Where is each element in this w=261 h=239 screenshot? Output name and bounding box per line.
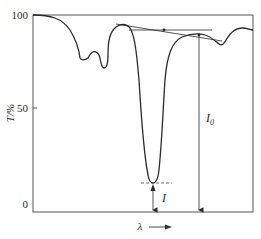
y-tick-label-50: 50 bbox=[17, 102, 29, 114]
y-tick-label-0: 0 bbox=[23, 198, 29, 210]
transmittance-diagram: 100 50 0 T/% I0 I λ bbox=[0, 0, 261, 239]
spectrum-curve bbox=[33, 15, 253, 183]
tangent-point-right bbox=[198, 34, 201, 37]
i-label: I bbox=[161, 191, 167, 205]
y-axis-label: T/% bbox=[4, 104, 16, 122]
x-axis-arrowhead bbox=[165, 225, 172, 230]
y-tick-label-100: 100 bbox=[12, 9, 29, 21]
tangent-point-left bbox=[163, 29, 166, 32]
i-arrow-top-head bbox=[151, 184, 156, 191]
x-axis-label: λ bbox=[137, 220, 143, 232]
i0-label: I0 bbox=[205, 111, 214, 127]
